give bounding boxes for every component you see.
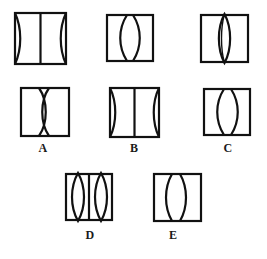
figure-diagram	[0, 0, 267, 259]
figure-label-c: C	[218, 142, 238, 155]
figure-label-d: D	[80, 229, 100, 242]
figure-label-e: E	[163, 229, 183, 242]
figure-label-a: A	[33, 142, 53, 155]
figure-label-b: B	[124, 142, 144, 155]
